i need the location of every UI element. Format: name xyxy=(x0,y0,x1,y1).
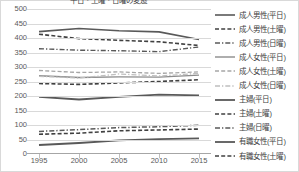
y-tick-label: 350 xyxy=(5,49,27,57)
legend-item[interactable]: 主婦(土曜) xyxy=(215,109,272,119)
series-line xyxy=(39,70,199,73)
legend-item[interactable]: 主婦(平日) xyxy=(215,95,272,105)
legend-item[interactable]: 成人男性(土曜) xyxy=(215,24,286,34)
y-tick-label: 200 xyxy=(5,92,27,100)
series-line xyxy=(39,34,199,45)
legend-label: 主婦(土曜) xyxy=(239,109,272,118)
series-line xyxy=(39,125,199,131)
gridline xyxy=(27,38,211,39)
y-tick-label: 400 xyxy=(5,34,27,42)
legend-line-swatch xyxy=(215,11,235,19)
gridline xyxy=(27,96,211,97)
legend-label: 成人男性(平日) xyxy=(239,11,286,20)
legend-line-swatch xyxy=(215,82,235,90)
legend-item[interactable]: 成人女性(日曜) xyxy=(215,81,286,91)
y-tick-label: 500 xyxy=(5,5,27,13)
legend-label: 成人女性(平日) xyxy=(239,53,286,62)
y-tick-label: 150 xyxy=(5,107,27,115)
legend-item[interactable]: 有職女性(土曜) xyxy=(215,151,286,161)
legend-label: 成人男性(土曜) xyxy=(239,25,286,34)
y-tick-label: 250 xyxy=(5,78,27,86)
legend-line-swatch xyxy=(215,96,235,104)
legend-line-swatch xyxy=(215,67,235,75)
legend-label: 成人女性(日曜) xyxy=(239,81,286,90)
series-line xyxy=(39,47,199,52)
gridline xyxy=(27,111,211,112)
x-tick-label: 2000 xyxy=(71,156,88,165)
legend-item[interactable]: 主婦(日曜) xyxy=(215,123,272,133)
gridline xyxy=(27,82,211,83)
legend-label: 成人男性(日曜) xyxy=(239,39,286,48)
y-tick-label: 0 xyxy=(5,150,27,158)
legend-line-swatch xyxy=(215,124,235,132)
gridline xyxy=(27,24,211,25)
x-tick-label: 1995 xyxy=(31,156,48,165)
y-tick-label: 100 xyxy=(5,121,27,129)
gridline xyxy=(27,53,211,54)
y-tick-label: 50 xyxy=(5,136,27,144)
legend-line-swatch xyxy=(215,53,235,61)
x-axis-tick-labels: 19952000200520102015 xyxy=(27,156,211,170)
legend-label: 成人女性(土曜) xyxy=(239,67,286,76)
legend-label: 主婦(日曜) xyxy=(239,123,272,132)
legend-line-swatch xyxy=(215,25,235,33)
x-tick-label: 2015 xyxy=(191,156,208,165)
line-chart: 平日・土曜・日曜の変遷 5004504003503002502001501005… xyxy=(0,0,299,172)
legend-label: 主婦(平日) xyxy=(239,95,272,104)
plot-area xyxy=(27,9,211,154)
legend-line-swatch xyxy=(215,152,235,160)
y-tick-label: 450 xyxy=(5,20,27,28)
gridline xyxy=(27,9,211,10)
gridline xyxy=(27,125,211,126)
legend-item[interactable]: 成人男性(日曜) xyxy=(215,38,286,48)
legend-line-swatch xyxy=(215,138,235,146)
gridline xyxy=(27,140,211,141)
legend-label: 有職女性(土曜) xyxy=(239,152,286,161)
chart-title: 平日・土曜・日曜の変遷 xyxy=(1,0,216,5)
legend-item[interactable]: 成人女性(土曜) xyxy=(215,66,286,76)
legend-line-swatch xyxy=(215,110,235,118)
legend-item[interactable]: 成人男性(平日) xyxy=(215,10,286,20)
x-tick-label: 2010 xyxy=(151,156,168,165)
plot-area-wrapper xyxy=(27,9,211,154)
legend-item[interactable]: 成人女性(平日) xyxy=(215,52,286,62)
gridline xyxy=(27,67,211,68)
legend-label: 有職女性(平日) xyxy=(239,137,286,146)
legend-line-swatch xyxy=(215,39,235,47)
x-tick-label: 2005 xyxy=(111,156,128,165)
chart-legend: 成人男性(平日)成人男性(土曜)成人男性(日曜)成人女性(平日)成人女性(土曜)… xyxy=(215,10,299,168)
y-tick-label: 300 xyxy=(5,63,27,71)
legend-item[interactable]: 有職女性(平日) xyxy=(215,137,286,147)
